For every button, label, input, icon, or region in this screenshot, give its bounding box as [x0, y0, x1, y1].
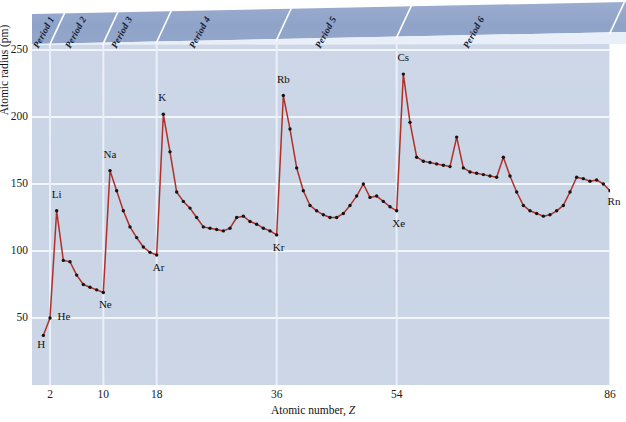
data-point — [568, 190, 571, 193]
y-axis-title: Atomic radius (pm) — [0, 0, 10, 150]
x-axis-tick: 10 — [98, 388, 110, 400]
data-point — [102, 291, 105, 294]
data-point — [242, 214, 245, 217]
period-banner — [0, 0, 626, 60]
data-point — [155, 253, 158, 256]
data-point — [322, 213, 325, 216]
data-point — [215, 228, 218, 231]
data-point — [588, 180, 591, 183]
data-point — [328, 216, 331, 219]
data-point — [488, 174, 491, 177]
data-point — [62, 259, 65, 262]
data-point — [355, 194, 358, 197]
data-point — [428, 161, 431, 164]
x-axis-tick: 54 — [391, 388, 403, 400]
data-point — [248, 220, 251, 223]
element-label-h: H — [37, 338, 45, 350]
data-point — [335, 216, 338, 219]
data-point — [548, 213, 551, 216]
data-point — [82, 283, 85, 286]
data-point — [455, 135, 458, 138]
data-point — [128, 225, 131, 228]
x-axis-title-variable: Z — [349, 404, 355, 416]
data-point — [95, 288, 98, 291]
data-point — [435, 162, 438, 165]
data-point — [88, 285, 91, 288]
data-point — [108, 169, 111, 172]
data-point — [348, 204, 351, 207]
data-point — [175, 190, 178, 193]
data-point — [442, 164, 445, 167]
x-axis-tick: 86 — [604, 388, 616, 400]
data-point — [202, 225, 205, 228]
y-axis-tick: 150 — [0, 177, 28, 189]
element-label-k: K — [158, 91, 166, 103]
data-point — [302, 189, 305, 192]
x-axis-tick: 2 — [47, 388, 53, 400]
element-label-cs: Cs — [398, 51, 410, 63]
y-axis-tick: 50 — [0, 311, 28, 323]
x-axis-tick: 18 — [151, 388, 163, 400]
element-label-xe: Xe — [392, 217, 405, 229]
data-point — [208, 227, 211, 230]
plot-canvas — [32, 44, 610, 385]
data-point — [48, 316, 51, 319]
data-point — [342, 212, 345, 215]
data-point — [582, 177, 585, 180]
data-point — [422, 160, 425, 163]
data-point — [122, 209, 125, 212]
data-point — [142, 245, 145, 248]
data-point — [188, 206, 191, 209]
data-point — [42, 334, 45, 337]
element-label-rn: Rn — [608, 195, 621, 207]
data-point — [508, 174, 511, 177]
atomic-radius-chart: Period 1Period 2Period 3Period 4Period 5… — [0, 0, 626, 422]
data-point — [315, 209, 318, 212]
data-point — [522, 204, 525, 207]
data-point — [502, 156, 505, 159]
x-axis-title-text: Atomic number, — [271, 404, 349, 416]
element-label-he: He — [58, 310, 71, 322]
data-point — [135, 236, 138, 239]
element-label-ne: Ne — [99, 298, 112, 310]
data-point — [148, 251, 151, 254]
element-label-li: Li — [52, 188, 62, 200]
element-label-rb: Rb — [277, 73, 290, 85]
data-point — [182, 200, 185, 203]
data-point — [395, 209, 398, 212]
data-point — [228, 227, 231, 230]
data-point — [535, 212, 538, 215]
x-axis-tick: 36 — [271, 388, 283, 400]
radius-curve — [43, 74, 610, 335]
data-point — [255, 223, 258, 226]
data-point — [495, 176, 498, 179]
data-point — [482, 173, 485, 176]
data-point — [288, 127, 291, 130]
data-point — [402, 72, 405, 75]
data-point — [115, 189, 118, 192]
data-point — [475, 172, 478, 175]
data-point — [382, 200, 385, 203]
y-axis-tick: 100 — [0, 244, 28, 256]
data-point — [575, 176, 578, 179]
data-point — [195, 216, 198, 219]
data-point — [595, 178, 598, 181]
x-axis-title: Atomic number, Z — [0, 404, 626, 416]
element-label-kr: Kr — [273, 241, 285, 253]
data-point — [562, 204, 565, 207]
data-point — [268, 229, 271, 232]
data-point — [282, 94, 285, 97]
data-point — [362, 182, 365, 185]
data-point — [415, 156, 418, 159]
data-point — [275, 233, 278, 236]
data-point — [308, 204, 311, 207]
data-point — [235, 216, 238, 219]
data-point — [555, 209, 558, 212]
data-point — [542, 214, 545, 217]
data-point — [468, 170, 471, 173]
data-point — [162, 113, 165, 116]
data-point — [55, 209, 58, 212]
data-point — [368, 196, 371, 199]
data-point — [295, 166, 298, 169]
data-point — [528, 209, 531, 212]
